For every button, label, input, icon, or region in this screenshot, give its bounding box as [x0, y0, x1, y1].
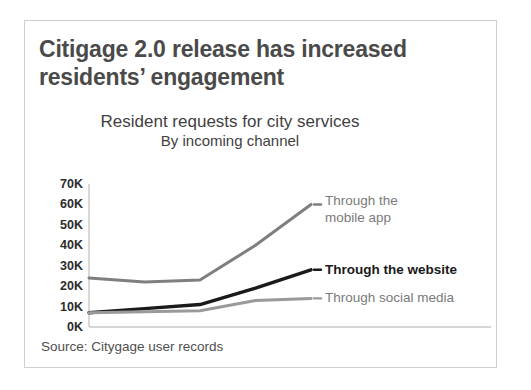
y-axis-tick-label: 60K	[60, 197, 83, 211]
line-chart: 0K10K20K30K40K50K60K70K 2016201720182019…	[25, 151, 498, 336]
chart-subtitle: By incoming channel	[45, 132, 415, 149]
y-axis-tick-label: 20K	[60, 279, 83, 293]
series-label-0-line2: mobile app	[325, 210, 391, 225]
y-axis-tick-labels: 0K10K20K30K40K50K60K70K	[60, 177, 83, 334]
series-label-0: Through the	[325, 193, 398, 208]
source-note: Source: Citygage user records	[41, 339, 223, 354]
y-axis-tick-label: 50K	[60, 218, 83, 232]
slide-card: Citigage 2.0 release has increased resid…	[24, 20, 497, 368]
series-lines-group	[89, 204, 311, 312]
y-axis-tick-label: 70K	[60, 177, 83, 191]
y-axis-tick-label: 30K	[60, 259, 83, 273]
series-line-1	[89, 270, 311, 313]
y-axis-tick-label: 10K	[60, 300, 83, 314]
series-label-2: Through social media	[325, 290, 455, 305]
chart-title: Resident requests for city services	[45, 111, 415, 132]
y-axis-tick-label: 40K	[60, 238, 83, 252]
series-line-0	[89, 204, 311, 282]
page-title: Citigage 2.0 release has increased resid…	[39, 35, 479, 91]
series-label-1: Through the website	[325, 262, 457, 277]
y-axis-tick-label: 0K	[67, 320, 83, 334]
series-labels-group: Through themobile appThrough the website…	[314, 193, 457, 305]
chart-canvas: 0K10K20K30K40K50K60K70K 2016201720182019…	[25, 151, 498, 336]
